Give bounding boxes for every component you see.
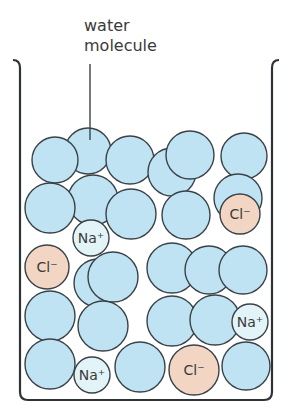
water-molecule — [106, 189, 156, 239]
chloride-ion: Cl⁻ — [220, 194, 260, 234]
chloride-ion-label: Cl⁻ — [229, 206, 250, 222]
water-molecule — [106, 136, 154, 184]
sodium-ion: Na⁺ — [232, 304, 268, 340]
beaker-diagram: Na⁺Cl⁻Cl⁻Na⁺Na⁺Cl⁻ — [0, 0, 284, 420]
chloride-ion-label: Cl⁻ — [36, 259, 57, 275]
sodium-ion-label: Na⁺ — [79, 367, 105, 383]
particles: Na⁺Cl⁻Cl⁻Na⁺Na⁺Cl⁻ — [25, 128, 270, 395]
sodium-ion-label: Na⁺ — [78, 230, 104, 246]
chloride-ion-label: Cl⁻ — [183, 362, 204, 378]
water-molecule — [221, 133, 267, 179]
water-molecule — [115, 342, 165, 392]
water-molecule — [222, 342, 270, 390]
water-molecule — [78, 301, 128, 351]
water-molecule — [25, 183, 75, 233]
water-molecule — [32, 137, 78, 183]
water-molecule — [88, 252, 138, 302]
sodium-ion-label: Na⁺ — [237, 314, 263, 330]
water-molecule — [25, 339, 75, 389]
water-molecule — [25, 291, 75, 341]
sodium-ion: Na⁺ — [73, 220, 109, 256]
water-molecule — [219, 246, 267, 294]
water-molecule — [166, 131, 214, 179]
chloride-ion: Cl⁻ — [169, 345, 219, 395]
sodium-ion: Na⁺ — [74, 357, 110, 393]
water-molecule — [162, 191, 210, 239]
chloride-ion: Cl⁻ — [25, 245, 69, 289]
